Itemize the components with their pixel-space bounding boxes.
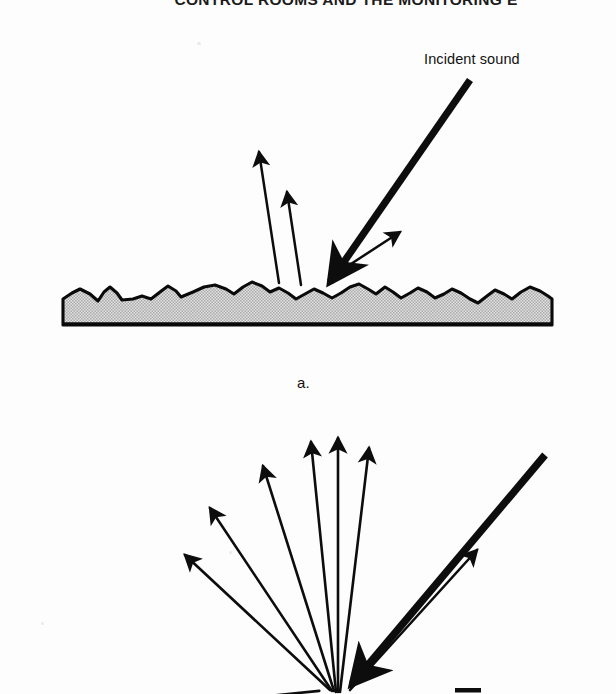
panel-b-diffuse-scattering: Incident sound [0,400,616,694]
scattered-rays-b [36,438,477,694]
figure-page: CONTROL ROOMS AND THE MONITORING E [0,0,616,694]
incident-sound-ray-b [352,455,545,684]
panel-a-caption: a. [297,374,310,391]
rough-surface-slab [63,282,552,325]
scattered-ray [287,192,301,285]
scattered-ray [259,152,279,283]
panel-b-artwork [0,400,616,694]
scattered-rays-a [259,152,400,285]
incident-sound-ray-a [330,80,470,282]
scattered-ray [340,448,369,692]
scattered-ray [334,232,400,275]
scattered-ray [36,675,319,694]
surface-tick [455,688,481,693]
scattered-ray [210,508,332,691]
panel-a-rough-surface: Incident sound a. [0,0,616,400]
panel-a-artwork [0,0,616,400]
scattered-ray [185,555,330,690]
incident-sound-label-a: Incident sound [424,51,520,67]
